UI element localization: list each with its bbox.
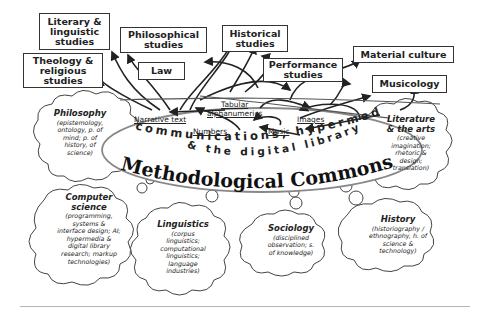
cloud-sociology-desc: (disciplined observation; s. of knowledg…	[255, 234, 327, 257]
box-theology-religious-studies: Theology & religious studies	[23, 53, 103, 88]
cloud-linguistics-desc: (corpus linguistics; computational lingu…	[148, 230, 218, 276]
data-type-tabular-alphanumerics: Tabular alphanumerics	[207, 101, 262, 118]
cloud-philosophy-desc: (epistemology, ontology, p. of mind; p. …	[40, 119, 120, 157]
data-type-numbers: Numbers	[193, 128, 227, 136]
box-historical-studies: Historical studies	[222, 25, 288, 52]
cloud-linguistics-title: Linguistics	[148, 220, 218, 230]
data-type-narrative-text: Narrative text	[134, 116, 186, 124]
cloud-history-desc: (historiography / ethnography, h. of sci…	[355, 225, 441, 255]
box-literary-linguistic-studies: Literary & linguistic studies	[39, 13, 110, 50]
cloud-history-title: History	[355, 215, 441, 225]
cloud-computer-desc: (programming, systems & interface design…	[44, 212, 134, 265]
cloud-linguistics: Linguistics (corpus linguistics; computa…	[148, 220, 218, 275]
cloud-philosophy: Philosophy (epistemology, ontology, p. o…	[40, 109, 120, 156]
box-material-culture: Material culture	[353, 46, 454, 63]
box-musicology: Musicology	[372, 75, 447, 93]
bottom-divider	[20, 306, 470, 307]
box-performance-studies: Performance studies	[263, 58, 343, 82]
cloud-literature-desc: (creative imagination; rhetoric & design…	[376, 134, 446, 172]
data-type-music: Music	[268, 128, 289, 136]
cloud-computer-science: Computer science (programming, systems &…	[44, 193, 134, 265]
box-law: Law	[138, 62, 185, 80]
data-type-images: Images	[297, 116, 324, 124]
cloud-history: History (historiography / ethnography, h…	[355, 215, 441, 255]
cloud-computer-title: Computer science	[44, 193, 134, 212]
box-philosophical-studies: Philosophical studies	[120, 27, 207, 53]
cloud-literature-arts: Literature & the arts (creative imaginat…	[376, 115, 446, 172]
cloud-literature-title: Literature & the arts	[376, 115, 446, 134]
cloud-sociology-title: Sociology	[255, 224, 327, 234]
cloud-philosophy-title: Philosophy	[40, 109, 120, 119]
cloud-sociology: Sociology (disciplined observation; s. o…	[255, 224, 327, 256]
